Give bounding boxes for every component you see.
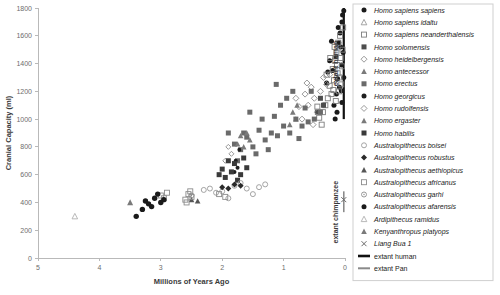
legend-label: Homo georgicus	[374, 93, 425, 101]
data-point	[266, 147, 271, 152]
y-tick-label: 1400	[16, 60, 32, 67]
legend-label: Homo sapiens neanderthalensis	[374, 31, 475, 39]
legend-label: Australopithecus aethiopicus	[373, 167, 464, 175]
data-point	[281, 124, 286, 129]
legend-label: Australopithecus boisei	[373, 142, 446, 150]
legend-label: Homo rudolfensis	[374, 105, 429, 112]
data-point	[263, 137, 268, 142]
legend-label: Australopithecus africanus	[373, 179, 457, 187]
data-point	[333, 117, 338, 122]
x-tick-label: 0	[343, 264, 347, 271]
data-point	[241, 156, 246, 161]
data-point	[275, 133, 280, 138]
data-point	[140, 207, 145, 212]
legend-item[interactable]: Homo heidelbergensis	[361, 56, 444, 64]
data-point	[309, 89, 314, 94]
legend-item[interactable]: Australopithecus africanus	[362, 179, 457, 187]
data-point	[235, 178, 240, 183]
cranial-capacity-scatter-chart: 020040060080010001200140016001800543210M…	[0, 0, 500, 295]
legend-item[interactable]: Australopithecus boisei	[362, 142, 447, 150]
legend-item[interactable]: Australopithecus aethiopicus	[361, 167, 463, 175]
legend-marker-icon	[362, 81, 367, 86]
data-point	[269, 131, 274, 136]
data-point	[341, 8, 346, 13]
x-tick-label: 4	[97, 264, 101, 271]
data-point	[217, 172, 222, 177]
data-point	[238, 172, 243, 177]
legend-label: extant Pan	[374, 265, 408, 272]
data-point	[318, 96, 323, 101]
data-point	[236, 166, 240, 170]
data-point	[244, 165, 249, 170]
data-point	[335, 110, 340, 115]
y-tick-label: 1800	[16, 5, 32, 12]
chart-canvas: 020040060080010001200140016001800543210M…	[0, 0, 500, 295]
data-point	[134, 214, 139, 219]
extant-chimpanzee-label: extant chimpanzee	[332, 181, 340, 244]
y-tick-label: 1600	[16, 32, 32, 39]
data-point	[284, 96, 289, 101]
data-point	[312, 117, 317, 122]
data-point	[226, 158, 231, 163]
y-tick-label: 600	[20, 171, 32, 178]
data-point	[293, 117, 298, 122]
y-tick-label: 800	[20, 143, 32, 150]
data-point	[253, 151, 258, 156]
y-tick-label: 200	[20, 227, 32, 234]
data-point	[220, 167, 225, 172]
y-axis-title: Cranial Capacity (ml)	[4, 95, 13, 170]
data-point	[229, 169, 234, 174]
x-tick-label: 5	[36, 264, 40, 271]
data-point	[232, 161, 237, 166]
legend-label: Homo sapiens sapiens	[374, 7, 445, 15]
data-point	[287, 131, 292, 136]
data-point	[321, 103, 326, 108]
data-point	[339, 100, 344, 105]
legend-item[interactable]: Homo sapiens sapiens	[362, 7, 446, 15]
data-point	[339, 19, 344, 24]
data-point	[290, 89, 295, 94]
y-tick-label: 1200	[16, 88, 32, 95]
data-point	[300, 124, 305, 129]
legend-item[interactable]: Australopithecus garhi	[362, 191, 444, 199]
data-point	[318, 110, 323, 115]
x-tick-label: 3	[159, 264, 163, 271]
data-point	[250, 144, 255, 149]
legend-label: Australopithecus afarensis	[373, 203, 457, 211]
legend-marker-icon	[362, 8, 367, 13]
x-tick-label: 2	[220, 264, 224, 271]
data-point	[336, 25, 341, 30]
legend-item[interactable]: Australopithecus afarensis	[362, 203, 457, 211]
legend-label: Liang Bua 1	[374, 240, 411, 248]
data-point	[161, 197, 166, 202]
legend-marker-icon	[362, 44, 367, 49]
legend-marker-icon	[362, 204, 367, 209]
y-tick-label: 400	[20, 199, 32, 206]
legend-marker-icon	[362, 94, 367, 99]
legend-label: Homo sapiens idaltu	[374, 19, 438, 27]
legend-item[interactable]: Australopithecus robustus	[361, 154, 455, 162]
data-point	[260, 117, 265, 122]
data-point	[143, 198, 148, 203]
legend-label: Homo erectus	[374, 80, 418, 87]
data-point	[223, 175, 228, 180]
data-point	[226, 131, 231, 136]
extant-human-label: extant human	[332, 41, 339, 87]
legend-label: Homo ergaster	[374, 117, 421, 125]
legend-label: Australopithecus garhi	[373, 191, 444, 199]
legend-item[interactable]: Kenyanthropus platyops	[361, 228, 449, 236]
legend-item[interactable]: Homo sapiens neanderthalensis	[362, 31, 475, 39]
y-tick-label: 1000	[16, 116, 32, 123]
x-tick-label: 1	[282, 264, 286, 271]
legend-label: Homo heidelbergensis	[374, 56, 444, 64]
data-point	[272, 114, 277, 119]
data-point	[278, 103, 283, 108]
legend-label: Kenyanthropus platyops	[374, 228, 450, 236]
legend-label: extant human	[374, 253, 417, 260]
legend-label: Homo habilis	[374, 130, 415, 137]
y-tick-label: 0	[28, 255, 32, 262]
legend-label: Homo antecessor	[374, 68, 430, 75]
legend-label: Australopithecus robustus	[373, 154, 455, 162]
data-point	[274, 82, 279, 87]
data-point	[155, 191, 160, 196]
